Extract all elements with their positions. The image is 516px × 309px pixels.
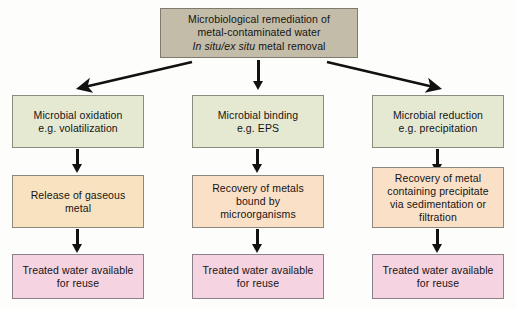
title-line-2: metal-contaminated water (197, 26, 320, 38)
branch-arrow-left (80, 62, 192, 88)
node-reduction-stage3: Treated water available for reuse (372, 254, 504, 299)
node-oxidation-stage2: Release of gaseous metal (12, 175, 144, 228)
title-line-3-italic: In situ/ex situ (192, 40, 255, 52)
reduction-arrow-2-head (432, 244, 442, 253)
binding-stage1-line-1: Microbial binding (218, 109, 299, 121)
flowchart-canvas: Microbiological remediation of metal-con… (0, 0, 516, 309)
reduction-stage1-line-2: e.g. precipitation (399, 122, 478, 134)
binding-arrow-1-head (252, 164, 262, 173)
node-oxidation-stage1: Microbial oxidation e.g. volatilization (12, 95, 144, 148)
reduction-stage2-line-4: filtration (419, 211, 457, 223)
node-binding-stage2: Recovery of metals bound by microorganis… (192, 175, 324, 228)
reduction-stage2-line-1: Recovery of metal (395, 172, 481, 184)
binding-stage2-line-3: microorganisms (220, 208, 296, 220)
reduction-stage2-line-2: containing precipitate (387, 185, 488, 197)
reduction-stage3-line-1: Treated water available (382, 264, 493, 276)
oxidation-arrow-1-head (72, 164, 82, 173)
node-reduction-stage1: Microbial reduction e.g. precipitation (372, 95, 504, 148)
oxidation-stage3-line-1: Treated water available (22, 264, 133, 276)
oxidation-stage2-line-1: Release of gaseous (31, 189, 126, 201)
binding-stage2-line-2: bound by (236, 195, 280, 207)
oxidation-arrow-2-head (72, 244, 82, 253)
binding-stage1-line-2: e.g. EPS (237, 122, 279, 134)
node-binding-stage1: Microbial binding e.g. EPS (192, 95, 324, 148)
node-reduction-stage2: Recovery of metal containing precipitate… (372, 167, 504, 228)
binding-arrow-2-head (252, 244, 262, 253)
oxidation-stage2-line-2: metal (65, 202, 91, 214)
reduction-stage1-line-1: Microbial reduction (393, 109, 483, 121)
binding-stage3-line-2: for reuse (237, 277, 279, 289)
node-oxidation-stage3: Treated water available for reuse (12, 254, 144, 299)
title-line-1: Microbiological remediation of (188, 13, 330, 25)
reduction-stage3-line-2: for reuse (417, 277, 459, 289)
title-line-3-rest: metal removal (255, 40, 325, 52)
binding-stage2-line-1: Recovery of metals (212, 182, 304, 194)
oxidation-stage1-line-1: Microbial oxidation (34, 109, 123, 121)
branch-arrow-center-shaft (257, 60, 260, 83)
oxidation-stage1-line-2: e.g. volatilization (38, 122, 118, 134)
binding-stage3-line-1: Treated water available (202, 264, 313, 276)
reduction-stage2-line-3: via sedimentation or (390, 198, 486, 210)
title-box: Microbiological remediation of metal-con… (160, 8, 358, 58)
branch-arrow-right (327, 62, 438, 88)
oxidation-stage3-line-2: for reuse (57, 277, 99, 289)
node-binding-stage3: Treated water available for reuse (192, 254, 324, 299)
branch-arrow-center-head (253, 81, 263, 90)
